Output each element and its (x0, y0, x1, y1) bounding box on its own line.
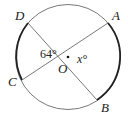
label-C: C (8, 74, 17, 89)
angle-DOC-label: 64° (40, 47, 57, 61)
center-point (67, 56, 70, 59)
arc-AB (97, 23, 120, 100)
label-B: B (101, 100, 109, 115)
circle-diagram: D A C B O 64° x° (0, 0, 128, 118)
label-A: A (111, 8, 120, 23)
angle-AOB-label: x° (76, 52, 87, 66)
label-D: D (14, 8, 25, 23)
arc-DC (16, 23, 28, 80)
label-O: O (58, 61, 68, 76)
